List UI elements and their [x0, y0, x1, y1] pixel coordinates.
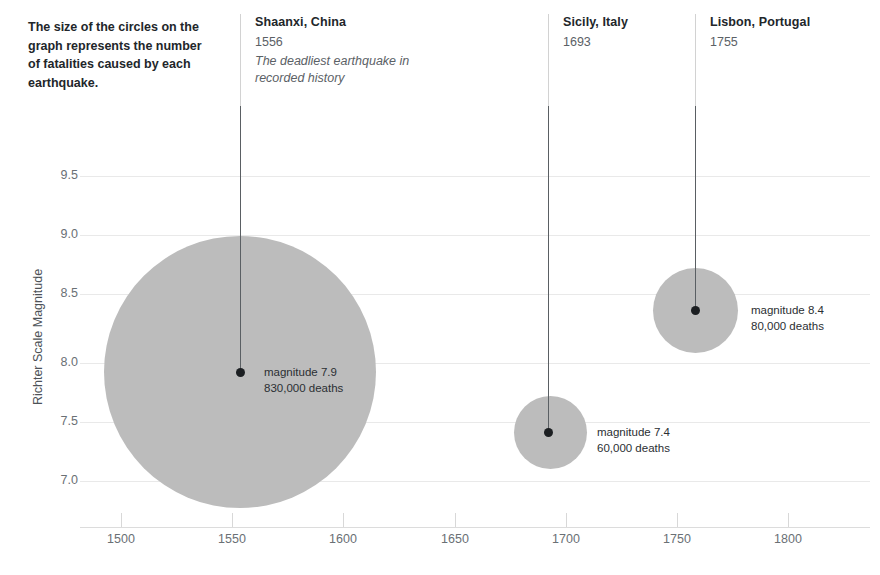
annotation-place: Shaanxi, China	[255, 14, 455, 31]
x-axis-tick-mark	[677, 513, 678, 527]
point-deaths-shaanxi: 830,000 deaths	[264, 381, 343, 397]
annotation-place: Sicily, Italy	[563, 14, 703, 31]
y-axis-tick-label: 8.5	[18, 286, 78, 300]
gridline-9-5	[80, 176, 870, 177]
y-axis-tick-label: 9.0	[18, 227, 78, 241]
annotation-divider	[548, 14, 549, 106]
point-deaths-sicily: 60,000 deaths	[597, 441, 670, 457]
annotation-divider	[240, 14, 241, 106]
gridline-9-0	[80, 235, 870, 236]
annotation-year: 1693	[563, 33, 703, 52]
point-magnitude-lisbon: magnitude 8.4	[751, 303, 824, 319]
x-axis-tick-label: 1650	[441, 532, 469, 546]
y-axis-tick-label: 9.5	[18, 168, 78, 182]
y-axis-tick-label: 8.0	[18, 355, 78, 369]
x-axis-line	[80, 527, 870, 528]
annotation-year: 1556	[255, 33, 455, 52]
annotation-divider	[695, 14, 696, 106]
data-point-shaanxi[interactable]	[236, 368, 245, 377]
x-axis-tick-label: 1600	[329, 532, 357, 546]
x-axis-tick-mark	[121, 513, 122, 527]
annotation-lisbon: Lisbon, Portugal 1755	[695, 14, 875, 52]
annotation-year: 1755	[710, 33, 875, 52]
y-axis-title: Richter Scale Magnitude	[31, 227, 45, 447]
point-label-lisbon: magnitude 8.4 80,000 deaths	[751, 303, 824, 334]
x-axis-tick-mark	[455, 513, 456, 527]
point-magnitude-sicily: magnitude 7.4	[597, 425, 670, 441]
point-label-sicily: magnitude 7.4 60,000 deaths	[597, 425, 670, 456]
x-axis-tick-mark	[343, 513, 344, 527]
x-axis-tick-label: 1800	[774, 532, 802, 546]
annotation-place: Lisbon, Portugal	[710, 14, 875, 31]
x-axis-tick-label: 1750	[663, 532, 691, 546]
data-point-lisbon[interactable]	[691, 306, 700, 315]
x-axis-tick-mark	[566, 513, 567, 527]
data-point-sicily[interactable]	[544, 428, 553, 437]
point-magnitude-shaanxi: magnitude 7.9	[264, 365, 343, 381]
x-axis-tick-label: 1550	[218, 532, 246, 546]
y-axis-tick-label: 7.5	[18, 414, 78, 428]
y-axis-tick-label: 7.0	[18, 473, 78, 487]
annotation-note: The deadliest earthquake in recorded his…	[255, 53, 435, 87]
x-axis-tick-label: 1700	[552, 532, 580, 546]
x-axis-tick-mark	[232, 513, 233, 527]
annotation-sicily: Sicily, Italy 1693	[548, 14, 703, 52]
point-label-shaanxi: magnitude 7.9 830,000 deaths	[264, 365, 343, 396]
annotation-shaanxi: Shaanxi, China 1556 The deadliest earthq…	[240, 14, 455, 87]
point-deaths-lisbon: 80,000 deaths	[751, 319, 824, 335]
x-axis-tick-label: 1500	[107, 532, 135, 546]
chart-caption: The size of the circles on the graph rep…	[28, 18, 210, 92]
x-axis-tick-mark	[788, 513, 789, 527]
